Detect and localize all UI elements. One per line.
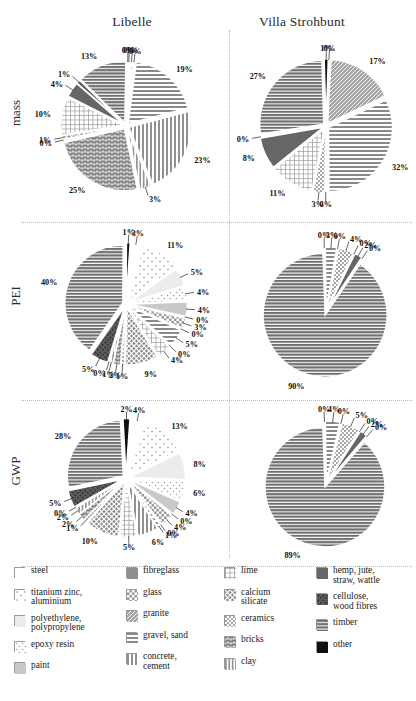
- pie-slice-timber: [260, 60, 324, 134]
- slice-percentage-label: 32%: [392, 163, 408, 172]
- legend-item-hemp-jute: hemp, jute,straw, wattle: [316, 566, 416, 586]
- legend-swatch-ceramics: [224, 615, 235, 626]
- legend-swatch-concrete-cement: [126, 653, 137, 664]
- slice-percentage-label: 8%: [194, 460, 206, 469]
- legend-swatch-fibreglass: [126, 567, 137, 578]
- slice-percentage-label: 19%: [176, 65, 192, 74]
- label-leader-line: [359, 423, 364, 431]
- figure-root: Libelle Villa Strohbunt mass PEI GWP 0%1…: [0, 0, 416, 701]
- slice-percentage-label: 0%: [192, 330, 204, 339]
- legend-item-cellulose: cellulose,wood fibres: [316, 592, 416, 612]
- legend-item-glass: glass: [126, 588, 226, 603]
- legend-swatch-other: [316, 641, 327, 652]
- legend-label-timber: timber: [333, 618, 357, 628]
- legend-label-lime: lime: [241, 566, 258, 576]
- slice-percentage-label: 11%: [167, 241, 183, 250]
- legend-label-glass: glass: [143, 588, 162, 598]
- legend-item-other: other: [316, 640, 416, 655]
- label-leader-line: [66, 85, 74, 90]
- legend-item-paint: paint: [14, 661, 122, 676]
- column-divider: [229, 30, 230, 558]
- legend-column-3: limecalciumsilicateceramicsbricksclay: [224, 566, 320, 678]
- legend-item-polyethylene: polyethylene,polypropylene: [14, 614, 122, 634]
- slice-percentage-label: 4%: [197, 288, 209, 297]
- row-label-mass: mass: [8, 83, 24, 143]
- slice-percentage-label: 0%: [93, 369, 105, 378]
- legend-label-other: other: [333, 640, 352, 650]
- slice-percentage-label: 0%: [375, 423, 387, 432]
- legend-item-epoxy-resin: epoxy resin: [14, 640, 122, 655]
- legend-item-clay: clay: [224, 657, 320, 672]
- slice-percentage-label: 10%: [35, 110, 51, 119]
- slice-percentage-label: 90%: [288, 382, 304, 391]
- legend-item-titanium-zinc: titanium zinc,aluminium: [14, 588, 122, 608]
- label-leader-line: [363, 426, 369, 434]
- legend-label-clay: clay: [241, 657, 256, 667]
- label-leader-line: [163, 351, 169, 358]
- slice-percentage-label: 0%: [369, 244, 381, 253]
- pie-slice-timber: [67, 420, 123, 488]
- pie-chart-pei-libelle: 3%11%5%4%4%0%3%0%5%0%4%9%1%2%1%0%5%40%1%: [34, 216, 214, 392]
- legend-label-granite: granite: [143, 609, 169, 619]
- slice-percentage-label: 4%: [133, 406, 145, 415]
- slice-percentage-label: 0%: [237, 135, 249, 144]
- legend-swatch-clay: [224, 658, 235, 669]
- label-leader-line: [354, 245, 358, 254]
- pie-slices: [260, 59, 393, 193]
- slice-percentage-label: 5%: [123, 543, 135, 552]
- column-title-libelle: Libelle: [42, 14, 222, 30]
- label-leader-line: [358, 248, 363, 257]
- legend-swatch-cellulose: [316, 593, 327, 604]
- legend-label-gravel-sand: gravel, sand: [143, 631, 188, 641]
- slice-percentage-label: 28%: [55, 432, 71, 441]
- legend-swatch-timber: [316, 619, 327, 630]
- pie-slices: [263, 247, 387, 377]
- column-title-villa: Villa Strohbunt: [212, 14, 392, 30]
- label-leader-line: [76, 516, 82, 521]
- slice-percentage-label: 5%: [49, 499, 61, 508]
- legend-item-gravel-sand: gravel, sand: [126, 631, 226, 646]
- label-leader-line: [362, 251, 368, 259]
- slice-percentage-label: 1%: [39, 136, 51, 145]
- legend-label-paint: paint: [31, 661, 50, 671]
- legend-label-hemp-jute: hemp, jute,straw, wattle: [333, 566, 380, 586]
- slice-percentage-label: 25%: [69, 186, 85, 195]
- slice-percentage-label: 89%: [284, 551, 300, 560]
- legend-swatch-polyethylene: [14, 615, 25, 626]
- pie-slices: [67, 419, 185, 538]
- slice-percentage-label: 6%: [193, 489, 205, 498]
- legend-column-2: fibreglassglassgranitegravel, sandconcre…: [126, 566, 226, 678]
- label-leader-line: [169, 345, 176, 351]
- pie-slices: [265, 421, 385, 547]
- slice-percentage-label: 3%: [312, 200, 324, 209]
- legend-item-calcium-silicate: calciumsilicate: [224, 588, 320, 608]
- slice-percentage-label: 1%: [58, 70, 70, 79]
- row-label-pei: PEI: [8, 266, 24, 326]
- legend-label-ceramics: ceramics: [241, 614, 274, 624]
- legend-label-cellulose: cellulose,wood fibres: [333, 592, 377, 612]
- legend-item-timber: timber: [316, 618, 416, 633]
- pie-chart-gwp-villa: 0%4%0%5%0%2%0%89%: [240, 394, 410, 560]
- legend-swatch-hemp-jute: [316, 567, 327, 578]
- slice-percentage-label: 27%: [250, 72, 266, 81]
- label-leader-line: [367, 430, 374, 438]
- legend-swatch-lime: [224, 567, 235, 578]
- legend-label-titanium-zinc: titanium zinc,aluminium: [31, 588, 82, 608]
- slice-percentage-label: 0%: [338, 407, 350, 416]
- pie-chart-mass-libelle: 0%1%0%19%23%3%25%0%1%10%4%1%13%0%: [34, 34, 214, 214]
- legend-swatch-bricks: [224, 636, 235, 647]
- slice-percentage-label: 4%: [198, 306, 210, 315]
- slice-percentage-label: 8%: [243, 154, 255, 163]
- label-leader-line: [172, 514, 178, 519]
- legend-label-fibreglass: fibreglass: [143, 566, 179, 576]
- label-leader-line: [73, 76, 80, 82]
- slice-percentage-label: 4%: [171, 356, 183, 365]
- label-leader-line: [350, 418, 354, 427]
- label-leader-line: [176, 338, 183, 343]
- slice-percentage-label: 0%: [54, 509, 66, 518]
- slice-percentage-label: 40%: [41, 278, 57, 287]
- legend-swatch-calcium-silicate: [224, 589, 235, 600]
- legend-column-4: hemp, jute,straw, wattlecellulose,wood f…: [316, 566, 416, 661]
- legend-item-steel: steel: [14, 566, 122, 581]
- legend-label-concrete-cement: concrete,cement: [143, 652, 177, 672]
